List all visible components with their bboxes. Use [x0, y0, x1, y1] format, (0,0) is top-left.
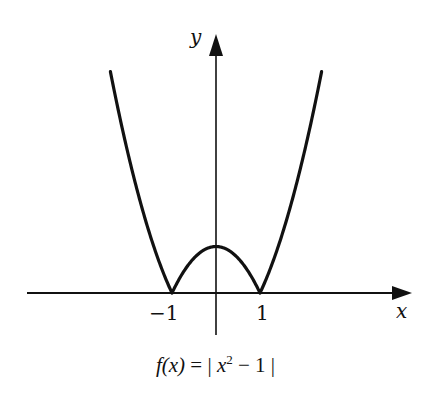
y-axis-arrow-icon [209, 34, 223, 56]
x-axis-label: x [396, 299, 407, 323]
caption-lhs: f(x) [156, 353, 185, 377]
graph-canvas: y x −1 1 [0, 0, 431, 411]
function-graph: y x −1 1 f(x) = | x2 − 1 | [0, 0, 431, 411]
caption-bar-close: | [271, 353, 275, 377]
caption-rest: − 1 [233, 353, 266, 377]
function-caption: f(x) = | x2 − 1 | [0, 352, 431, 378]
x-axis-arrow-icon [392, 286, 412, 300]
y-axis-label: y [189, 25, 202, 49]
caption-equals: = [190, 353, 202, 377]
caption-bar-open: | [207, 353, 211, 377]
tick-label-neg-one: −1 [149, 301, 178, 325]
tick-label-pos-one: 1 [256, 301, 269, 325]
caption-base: x [217, 353, 226, 377]
